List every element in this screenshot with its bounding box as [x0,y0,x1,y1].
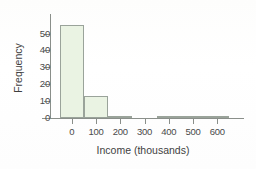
y-tick-label: 30 [28,61,50,72]
x-tick [145,119,146,124]
y-axis-label: Frequency [12,13,24,123]
x-tick [217,119,218,124]
histogram-bar [60,25,84,118]
x-tick [169,119,170,124]
plot-area: 01020304050 0100200300400500600 Income (… [0,0,256,169]
y-tick-label: 20 [28,78,50,89]
x-tick [96,119,97,124]
y-tick-label: 10 [28,95,50,106]
histogram-bar [84,96,108,118]
y-tick-label: 0 [28,112,50,123]
y-tick-label: 40 [28,44,50,55]
x-tick [193,119,194,124]
x-tick [72,119,73,124]
y-axis-line [50,14,51,119]
y-tick-label: 50 [28,28,50,39]
x-tick [120,119,121,124]
x-tick-label: 600 [202,126,232,137]
x-axis-label: Income (thousands) [40,144,246,156]
histogram-figure: 01020304050 0100200300400500600 Income (… [0,0,256,169]
